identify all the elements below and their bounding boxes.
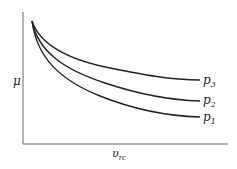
chart: p3 p2 p1 μ υrc xyxy=(0,0,237,169)
y-axis-label: μ xyxy=(13,74,21,88)
x-axis-label: υrc xyxy=(112,147,126,162)
label-p2: p2 xyxy=(203,93,216,109)
label-p1: p1 xyxy=(203,110,216,126)
curve-p2 xyxy=(32,21,200,101)
label-p3: p3 xyxy=(203,73,216,89)
